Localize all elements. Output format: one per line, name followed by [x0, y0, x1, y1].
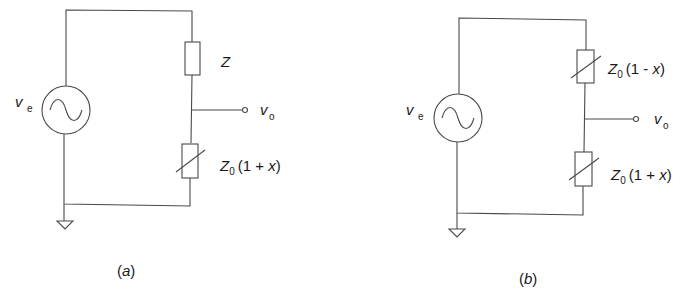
output-label-a: v	[260, 101, 269, 118]
ground-icon	[57, 221, 73, 229]
ground-icon	[449, 229, 465, 237]
ac-source-icon	[434, 94, 482, 142]
variable-impedance-icon	[176, 144, 205, 178]
output-label-b: v	[654, 110, 663, 127]
wire-b-mid	[584, 83, 585, 152]
wire-a-bottom	[64, 134, 190, 206]
wire-a-mid	[191, 75, 192, 143]
wire-a-top	[66, 10, 192, 86]
source-subscript-b: e	[418, 111, 424, 122]
output-terminal-a	[243, 108, 248, 113]
impedance-label-z: Z	[220, 53, 231, 70]
source-subscript-a: e	[27, 103, 33, 114]
wire-b-top	[459, 18, 586, 94]
circuit-diagram: v e Z v o Z0(1 + x) (a)	[0, 0, 689, 293]
wire-b-bottom	[457, 142, 583, 215]
variable-impedance-icon	[569, 152, 599, 186]
impedance-label-b-upper: Z0(1 - x)	[607, 60, 665, 80]
source-label-b: v	[406, 101, 415, 118]
caption-a: (a)	[117, 262, 135, 279]
impedance-z-icon	[185, 42, 200, 75]
source-label-a: v	[15, 93, 24, 110]
output-terminal-b	[634, 117, 639, 122]
circuit-a: v e Z v o Z0(1 + x) (a)	[15, 10, 281, 279]
output-subscript-b: o	[663, 120, 669, 131]
caption-b: (b)	[519, 270, 537, 287]
circuit-b: v e v o Z0(1 - x) Z0(1 + x) (b)	[406, 18, 672, 287]
ac-source-icon	[42, 86, 90, 134]
variable-impedance-icon	[571, 50, 601, 83]
output-subscript-a: o	[269, 111, 275, 122]
impedance-label-a-lower: Z0(1 + x)	[219, 157, 281, 177]
impedance-label-b-lower: Z0(1 + x)	[610, 166, 672, 186]
